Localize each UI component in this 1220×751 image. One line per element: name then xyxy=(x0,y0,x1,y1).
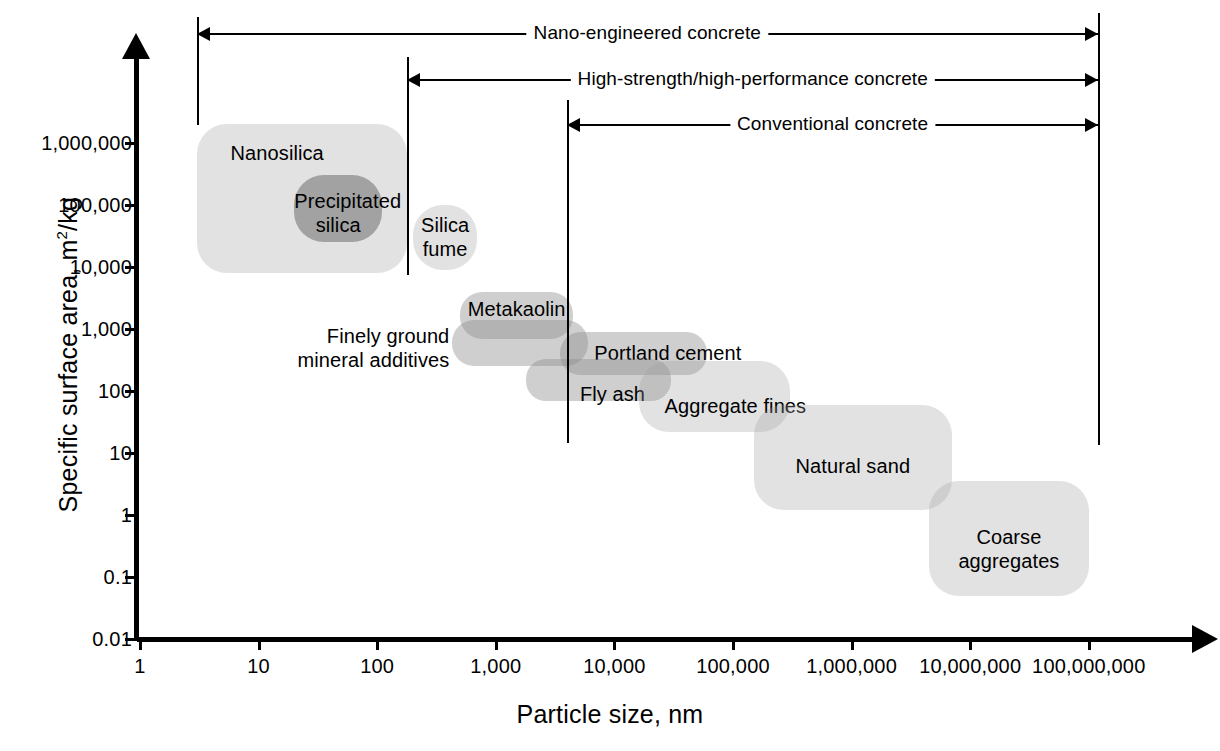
x-axis-arrow-icon xyxy=(1192,625,1218,653)
x-tick-label: 1,000 xyxy=(470,655,521,678)
bracket-arrow-row-3: Conventional concrete xyxy=(567,115,1098,135)
x-tick-label: 10,000 xyxy=(583,655,645,678)
x-tick-label: 100,000,000 xyxy=(1032,655,1145,678)
x-tick-label: 10,000,000 xyxy=(919,655,1021,678)
x-tick xyxy=(851,637,854,650)
bracket-arrowhead-right-icon xyxy=(1085,27,1098,41)
x-tick xyxy=(495,637,498,650)
region-label: Natural sand xyxy=(754,455,952,478)
bracket-arrowhead-left-icon xyxy=(407,73,420,87)
region-label: Coarseaggregates xyxy=(929,525,1089,573)
y-tick-label: 1 xyxy=(121,504,132,527)
y-tick-label: 1,000 xyxy=(81,318,132,341)
x-axis-title: Particle size, nm xyxy=(0,700,1220,729)
x-tick-label: 100 xyxy=(360,655,394,678)
x-tick xyxy=(969,637,972,650)
bracket-label-2: High-strength/high-performance concrete xyxy=(571,68,935,90)
region-label: Precipitatedsilica xyxy=(294,189,382,237)
bracket-left-vertical-line-3 xyxy=(567,100,569,443)
x-tick xyxy=(613,637,616,650)
bracket-arrowhead-left-icon xyxy=(567,118,580,132)
chart-canvas: Specific surface area, m2/kg Particle si… xyxy=(0,0,1220,751)
y-axis-title-base: Specific surface area, m xyxy=(54,239,82,512)
x-tick-label: 1 xyxy=(134,655,145,678)
x-tick xyxy=(139,637,142,650)
region-label-finely-ground-mineral-additives: Finely groundmineral additives xyxy=(274,324,449,372)
region-label: Metakaolin xyxy=(460,298,573,321)
y-tick-label: 0.01 xyxy=(92,628,132,651)
y-tick-label: 0.1 xyxy=(104,566,132,589)
x-tick-label: 10 xyxy=(247,655,270,678)
bracket-arrow-row-2: High-strength/high-performance concrete xyxy=(407,70,1098,90)
bracket-arrowhead-right-icon xyxy=(1085,73,1098,87)
region-precipitated-silica: Precipitatedsilica xyxy=(294,175,382,242)
bracket-arrow-row-1: Nano-engineered concrete xyxy=(197,24,1098,44)
bracket-arrowhead-right-icon xyxy=(1085,118,1098,132)
region-label: Silicafume xyxy=(413,213,478,261)
x-tick xyxy=(732,637,735,650)
y-tick-label: 100 xyxy=(98,380,132,403)
x-tick-label: 100,000 xyxy=(696,655,770,678)
x-tick-label: 1,000,000 xyxy=(806,655,897,678)
bracket-label-3: Conventional concrete xyxy=(730,113,935,135)
region-natural-sand: Natural sand xyxy=(754,405,952,510)
region-silica-fume: Silicafume xyxy=(413,205,478,270)
y-axis-line xyxy=(134,52,139,640)
bracket-label-1: Nano-engineered concrete xyxy=(527,22,768,44)
y-tick-label: 10,000 xyxy=(70,256,132,279)
bracket-arrowhead-left-icon xyxy=(197,27,210,41)
bracket-right-vertical-line xyxy=(1098,13,1100,445)
x-tick xyxy=(258,637,261,650)
y-tick-label: 1,000,000 xyxy=(41,132,132,155)
region-coarse-aggregates: Coarseaggregates xyxy=(929,481,1089,595)
region-label: Nanosilica xyxy=(197,142,324,165)
y-axis-arrow-icon xyxy=(122,33,150,59)
x-tick xyxy=(376,637,379,650)
y-axis-title-sup: 2 xyxy=(53,231,70,240)
x-tick xyxy=(1088,637,1091,650)
x-axis-line xyxy=(137,637,1203,642)
y-tick-label: 10 xyxy=(109,442,132,465)
y-tick-label: 100,000 xyxy=(58,194,132,217)
